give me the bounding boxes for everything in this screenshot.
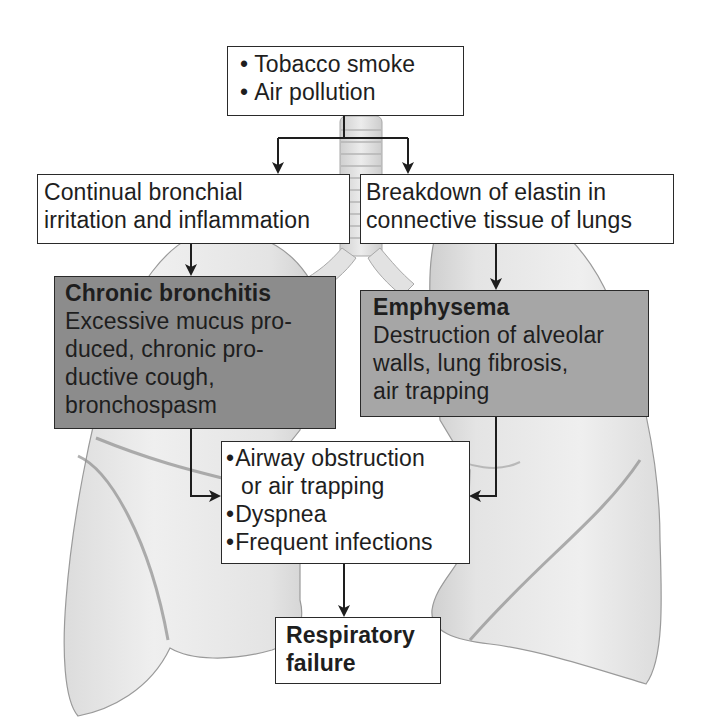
common-effects-box: Airway obstruction or air trapping Dyspn… xyxy=(221,441,470,564)
emphysema-title: Emphysema xyxy=(373,293,636,321)
cause-item: Tobacco smoke xyxy=(240,50,451,78)
causes-box: Tobacco smoke Air pollution xyxy=(227,46,464,116)
effect-item: Airway obstruction xyxy=(226,444,465,472)
bronchial-irritation-box: Continual bronchial irritation and infla… xyxy=(37,174,350,244)
chronic-bronchitis-box: Chronic bronchitis Excessive mucus pro- … xyxy=(54,276,336,429)
box-text: duced, chronic pro- xyxy=(65,335,325,363)
box-text: bronchospasm xyxy=(65,391,325,419)
box-text: irritation and inflammation xyxy=(44,206,343,234)
chronic-bronchitis-title: Chronic bronchitis xyxy=(65,279,325,307)
effect-item: Dyspnea xyxy=(226,500,465,528)
effect-item-continuation: or air trapping xyxy=(226,472,465,500)
box-text: Continual bronchial xyxy=(44,178,343,206)
box-text: Excessive mucus pro- xyxy=(65,307,325,335)
right-lung xyxy=(430,195,661,684)
effect-item: Frequent infections xyxy=(226,528,465,556)
box-text: Destruction of alveolar xyxy=(373,321,636,349)
box-text: Breakdown of elastin in xyxy=(366,178,668,206)
box-text: air trapping xyxy=(373,377,636,405)
respiratory-failure-box: Respiratory failure xyxy=(275,617,441,684)
box-text: walls, lung fibrosis, xyxy=(373,349,636,377)
elastin-breakdown-box: Breakdown of elastin in connective tissu… xyxy=(360,174,674,244)
emphysema-box: Emphysema Destruction of alveolar walls,… xyxy=(360,290,649,417)
outcome-text: Respiratory xyxy=(286,621,430,649)
box-text: ductive cough, xyxy=(65,363,325,391)
outcome-text: failure xyxy=(286,649,430,677)
cause-item: Air pollution xyxy=(240,78,451,106)
box-text: connective tissue of lungs xyxy=(366,206,668,234)
